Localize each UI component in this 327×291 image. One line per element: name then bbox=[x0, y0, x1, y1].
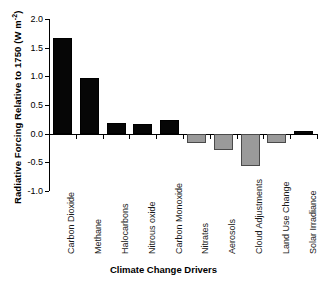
y-axis-tick-label: -0.5 bbox=[27, 157, 43, 167]
bar-nitrous-oxide bbox=[133, 124, 152, 134]
x-axis-tick bbox=[210, 134, 211, 139]
y-axis-tick-label: 0.5 bbox=[30, 100, 43, 110]
bar-carbon-monoxide bbox=[160, 120, 179, 133]
x-axis-tick bbox=[103, 134, 104, 139]
y-axis-tick-label: 1.5 bbox=[30, 43, 43, 53]
x-axis-label-nitrous-oxide: Nitrous oxide bbox=[147, 201, 157, 254]
y-axis-tick-label: 0.0 bbox=[30, 129, 43, 139]
y-axis-tick bbox=[45, 48, 49, 49]
x-axis-tick bbox=[49, 134, 50, 139]
bar-land-use-change bbox=[267, 134, 286, 144]
x-axis-label-solar-irradiance: Solar Irradiance bbox=[308, 190, 318, 254]
x-axis-title: Climate Change Drivers bbox=[0, 264, 327, 275]
y-axis-tick-label: 2.0 bbox=[30, 14, 43, 24]
x-axis-tick bbox=[129, 134, 130, 139]
bar-carbon-dioxide bbox=[53, 38, 72, 133]
y-axis-tick bbox=[45, 162, 49, 163]
y-axis-title-exponent: -2 bbox=[11, 14, 18, 20]
y-axis-title-text: Radiative Forcing Relative to 1750 (W m bbox=[12, 20, 23, 204]
bar-solar-irradiance bbox=[294, 131, 313, 134]
x-axis-label-halocarbons: Halocarbons bbox=[120, 203, 130, 254]
x-axis-label-cloud-adjustments: Cloud Adjustments bbox=[254, 179, 264, 254]
bar-aerosols bbox=[214, 134, 233, 151]
x-axis-tick bbox=[183, 134, 184, 139]
bar-halocarbons bbox=[107, 123, 126, 133]
bar-methane bbox=[80, 78, 99, 134]
bar-cloud-adjustments bbox=[241, 134, 260, 167]
y-axis-tick bbox=[45, 191, 49, 192]
bar-nitrates bbox=[187, 134, 206, 143]
x-axis-label-carbon-monoxide: Carbon Monoxide bbox=[174, 183, 184, 254]
x-axis-tick bbox=[76, 134, 77, 139]
x-axis-label-aerosols: Aerosols bbox=[227, 219, 237, 254]
y-axis-tick-label: -1.0 bbox=[27, 186, 43, 196]
radiative-forcing-bar-chart: Radiative Forcing Relative to 1750 (W m-… bbox=[0, 0, 327, 291]
x-axis-label-land-use-change: Land Use Change bbox=[281, 181, 291, 254]
x-axis-tick bbox=[290, 134, 291, 139]
x-axis-tick bbox=[263, 134, 264, 139]
x-axis-tick bbox=[237, 134, 238, 139]
x-axis-tick bbox=[317, 134, 318, 139]
y-axis-tick bbox=[45, 105, 49, 106]
x-axis-label-nitrates: Nitrates bbox=[200, 223, 210, 254]
y-axis-tick-label: 1.0 bbox=[30, 71, 43, 81]
y-axis-title-suffix: ) bbox=[12, 10, 23, 13]
y-axis-tick bbox=[45, 76, 49, 77]
y-axis-title: Radiative Forcing Relative to 1750 (W m-… bbox=[11, 14, 23, 204]
y-axis-tick bbox=[45, 19, 49, 20]
x-axis-tick bbox=[156, 134, 157, 139]
y-axis-line bbox=[49, 19, 50, 191]
x-axis-label-carbon-dioxide: Carbon Dioxide bbox=[66, 192, 76, 254]
x-axis-label-methane: Methane bbox=[93, 219, 103, 254]
plot-area: 2.01.51.00.50.0-0.5-1.0 bbox=[49, 19, 317, 191]
